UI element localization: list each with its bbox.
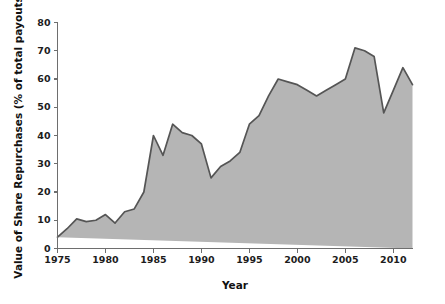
y-tick-label: 20 xyxy=(37,186,51,197)
x-tick-label: 1980 xyxy=(92,254,119,265)
y-tick-label: 0 xyxy=(44,243,51,254)
y-tick-label: 50 xyxy=(37,101,51,112)
x-tick-label: 1975 xyxy=(44,254,70,265)
y-axis-title: Value of Share Repurchases (% of total p… xyxy=(12,0,24,279)
x-tick-label: 2000 xyxy=(284,254,311,265)
share-repurchases-area-chart: 01020304050607080 1975198019851990199520… xyxy=(0,0,445,304)
chart-figure: 01020304050607080 1975198019851990199520… xyxy=(0,0,445,304)
x-tick-label: 1985 xyxy=(140,254,166,265)
x-axis-title: Year xyxy=(221,279,249,291)
x-tick-label: 2010 xyxy=(380,254,407,265)
x-tick-label: 2005 xyxy=(332,254,358,265)
x-tick-label: 1990 xyxy=(188,254,215,265)
x-tick-label: 1995 xyxy=(236,254,262,265)
y-tick-label: 80 xyxy=(37,17,51,28)
y-tick-label: 60 xyxy=(37,73,51,84)
y-tick-label: 40 xyxy=(37,130,51,141)
y-tick-label: 70 xyxy=(37,45,51,56)
y-tick-label: 30 xyxy=(37,158,51,169)
y-tick-label: 10 xyxy=(37,214,51,225)
